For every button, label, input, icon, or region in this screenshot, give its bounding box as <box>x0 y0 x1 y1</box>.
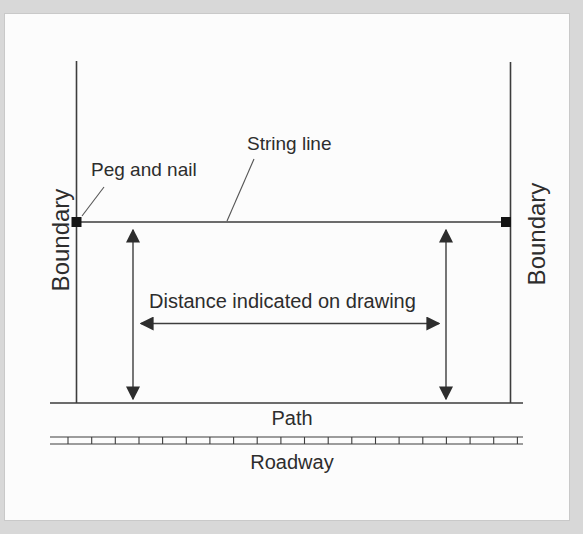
string-line-label: String line <box>247 134 332 155</box>
roadway-strip <box>50 437 523 444</box>
boundary-left-label: Boundary <box>48 189 74 292</box>
diagram-stage: Peg and nail String line Boundary Bounda… <box>0 0 583 534</box>
distance-label: Distance indicated on drawing <box>149 290 416 312</box>
right-peg-marker <box>501 217 511 227</box>
roadway-label: Roadway <box>242 451 342 473</box>
boundary-right-label: Boundary <box>524 183 550 286</box>
diagram-page: { "diagram": { "labels": { "peg_and_nail… <box>0 0 583 534</box>
peg-and-nail-label: Peg and nail <box>91 160 197 181</box>
peg-and-nail-leader-line <box>82 187 104 216</box>
path-label: Path <box>257 407 327 429</box>
string-line-leader-line <box>227 159 254 221</box>
